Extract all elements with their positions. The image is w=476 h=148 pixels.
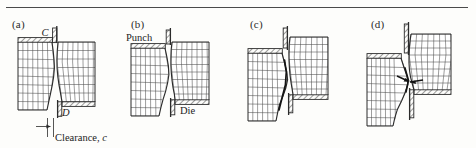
clearance-label: Clearance, c <box>55 132 107 143</box>
panel-b-drawing: Punch Die <box>119 0 238 148</box>
die-face-a <box>62 102 95 107</box>
punch-face-d <box>367 54 401 59</box>
clearance-arrowhead <box>46 125 50 129</box>
punch-face-a <box>18 38 53 43</box>
punch-label: Punch <box>126 32 153 43</box>
panel-d-drawing <box>357 0 476 148</box>
panel-d: (d) <box>357 0 476 148</box>
die-face-d <box>414 90 451 95</box>
panel-c-drawing <box>238 0 357 148</box>
figure-root: (a) <box>0 0 476 148</box>
panel-a: (a) <box>0 0 119 148</box>
panel-c: (c) <box>238 0 357 148</box>
point-c-label: C <box>42 27 50 38</box>
die-label: Die <box>180 105 196 116</box>
point-d-label: D <box>61 107 70 118</box>
panel-a-drawing: C D Clearance, c <box>0 0 119 148</box>
punch-face-c <box>248 49 282 54</box>
panel-b: (b) <box>119 0 238 148</box>
punch-face-b <box>131 44 165 49</box>
die-face-b <box>175 100 209 105</box>
die-face-c <box>293 95 328 100</box>
